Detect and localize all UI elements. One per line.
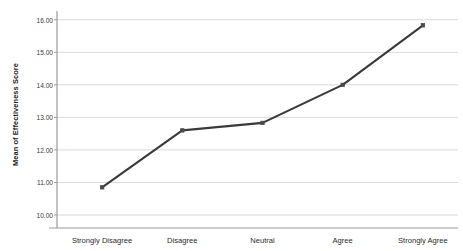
data-line-series	[102, 25, 423, 187]
data-point-marker	[181, 129, 184, 132]
data-point-marker	[341, 83, 344, 86]
data-point-marker	[100, 186, 103, 189]
line-chart: Mean of Effectiveness Score 10.0011.0012…	[0, 0, 463, 251]
plot-area	[0, 0, 463, 251]
data-point-marker	[421, 24, 424, 27]
data-point-marker	[261, 121, 264, 124]
